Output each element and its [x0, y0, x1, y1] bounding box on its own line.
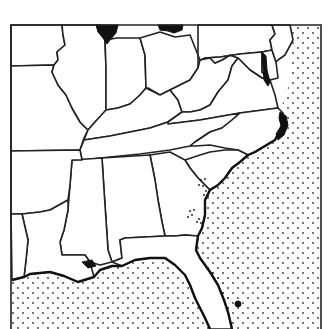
state-new-jersey [270, 25, 293, 62]
map [0, 0, 329, 329]
lake-okeechobee [235, 301, 241, 307]
state-iowa [11, 25, 65, 66]
